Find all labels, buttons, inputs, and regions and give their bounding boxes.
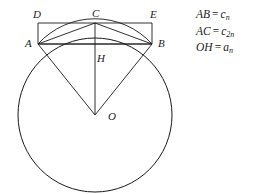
equation-legend: AB=cn AC=c2n OH=an <box>196 7 275 57</box>
label-point-e: E <box>150 9 157 20</box>
equation-subscript: 2n <box>226 30 234 39</box>
equation-row: AC=c2n <box>196 24 275 41</box>
segment-oa <box>38 44 95 115</box>
equation-row: AB=cn <box>196 7 275 24</box>
equation-lhs: OH <box>196 41 213 53</box>
label-point-d: D <box>33 9 41 20</box>
geometry-figure: D C E A B H O AB=cn AC=c2n OH=an <box>0 0 275 194</box>
label-point-c: C <box>92 8 99 19</box>
equation-subscript: n <box>226 13 230 22</box>
equation-row: OH=an <box>196 40 275 57</box>
label-point-a: A <box>25 38 32 49</box>
segment-cb <box>95 23 152 44</box>
equation-relation: = <box>213 41 224 53</box>
equation-relation: = <box>210 8 221 20</box>
equation-lhs: AC <box>196 25 211 37</box>
equation-relation: = <box>211 25 222 37</box>
label-point-o: O <box>108 111 116 122</box>
segment-ac <box>38 23 95 44</box>
label-point-h: H <box>97 53 105 64</box>
equation-lhs: AB <box>196 8 210 20</box>
equation-subscript: n <box>229 46 233 55</box>
equation-rhs: a <box>223 41 229 53</box>
label-point-b: B <box>158 38 165 49</box>
equation-rhs: c <box>221 8 226 20</box>
